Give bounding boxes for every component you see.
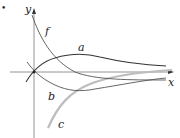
y-axis-arrow-icon xyxy=(32,8,36,14)
graph-canvas xyxy=(0,0,180,138)
origin-point xyxy=(33,71,36,74)
curve-b-label: b xyxy=(48,91,55,102)
y-axis-label: y xyxy=(25,4,31,15)
curve-f xyxy=(32,15,166,80)
curve-f-label: f xyxy=(45,26,49,37)
curve-c-label: c xyxy=(58,119,64,130)
curve-b xyxy=(27,62,166,91)
curve-a-label: a xyxy=(78,42,85,53)
curve-a xyxy=(26,54,166,82)
x-axis-label: x xyxy=(168,77,174,88)
